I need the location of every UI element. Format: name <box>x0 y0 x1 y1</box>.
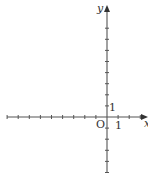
y-axis-label: y <box>96 2 104 15</box>
y-axis-arrow-icon <box>104 5 110 12</box>
coordinate-plane: y x O 1 1 <box>0 0 148 183</box>
axes <box>7 9 144 173</box>
x-unit-label: 1 <box>115 119 122 132</box>
y-unit-label: 1 <box>109 101 116 114</box>
x-axis-label: x <box>144 117 148 130</box>
origin-label: O <box>96 118 105 131</box>
